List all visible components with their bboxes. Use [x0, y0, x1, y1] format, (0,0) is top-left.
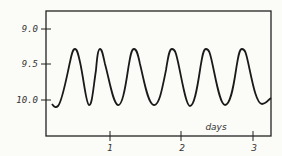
x-tick-label: 1 — [107, 143, 113, 153]
x-tick-label: 3 — [251, 143, 257, 153]
data-line — [52, 49, 271, 107]
x-axis-label: days — [205, 122, 227, 132]
chart: 9.0 9.5 10.0 1 2 3 days — [0, 0, 282, 156]
x-tick-label: 2 — [179, 143, 185, 153]
y-tick-label: 10.0 — [16, 95, 38, 105]
plot-frame — [46, 11, 271, 136]
y-tick-label: 9.5 — [22, 59, 38, 69]
y-tick-label: 9.0 — [22, 24, 38, 34]
